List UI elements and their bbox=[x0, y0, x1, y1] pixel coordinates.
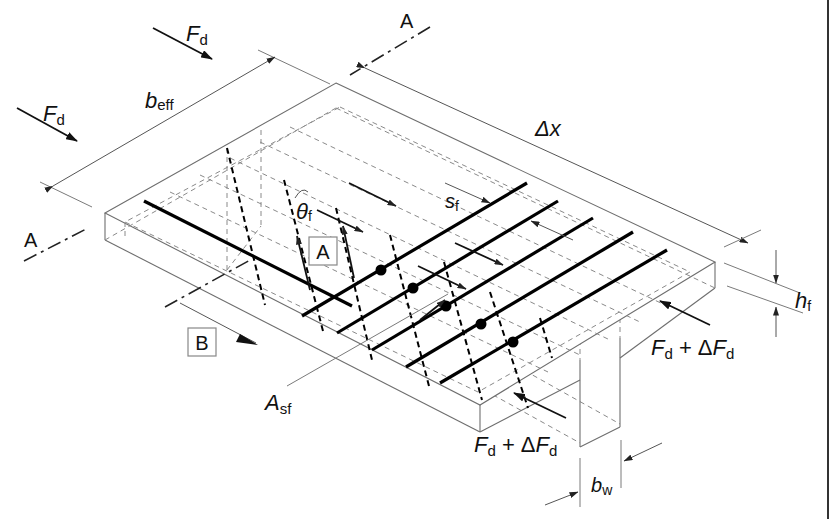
force-arrow-bottom bbox=[514, 393, 566, 418]
label-hf: hf bbox=[795, 288, 811, 314]
detail-box-b-label: B bbox=[195, 332, 208, 354]
detail-box-a: A bbox=[309, 237, 337, 265]
section-marker-a-top: A bbox=[400, 10, 414, 32]
t-beam-flange-diagram: A B A A Fd Fd beff Δx sf θf hf Fd + ΔFd … bbox=[0, 0, 830, 519]
flange-slab bbox=[105, 83, 715, 432]
label-beff: beff bbox=[145, 88, 174, 113]
label-fd-plus-dfd-bottom: Fd + ΔFd bbox=[474, 432, 557, 459]
label-fd-plus-dfd-right: Fd + ΔFd bbox=[651, 335, 734, 362]
detail-box-b: B bbox=[188, 328, 216, 356]
label-fd-top: Fd bbox=[186, 21, 208, 48]
label-asf: Asf bbox=[263, 390, 292, 417]
detail-box-a-label: A bbox=[316, 241, 330, 263]
dimension-hf bbox=[724, 250, 803, 337]
label-bw: bw bbox=[591, 474, 613, 498]
label-fd-left: Fd bbox=[43, 101, 65, 128]
section-marker-a-left: A bbox=[24, 229, 38, 251]
force-arrow-right bbox=[660, 301, 710, 325]
section-line-a-top bbox=[350, 27, 430, 75]
label-delta-x: Δx bbox=[534, 116, 562, 141]
